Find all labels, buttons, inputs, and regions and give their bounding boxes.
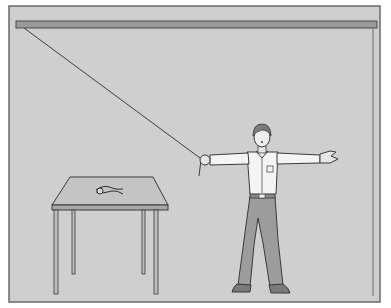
left-hand	[200, 155, 210, 165]
scene-svg	[0, 0, 391, 308]
shirt	[247, 152, 278, 194]
left-arm	[210, 153, 249, 165]
illustration-scene	[0, 0, 391, 308]
mouth	[261, 141, 263, 143]
right-arm	[277, 153, 320, 164]
